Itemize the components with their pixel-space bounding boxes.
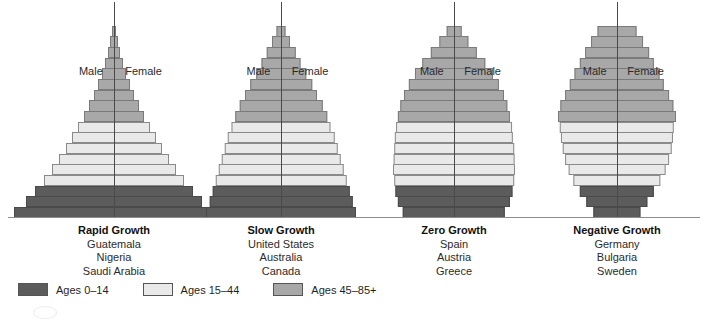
- panel-caption: Zero GrowthSpainAustriaGreece: [372, 224, 536, 278]
- legend-label-young: Ages 0–14: [56, 284, 109, 296]
- panel-title: Rapid Growth: [8, 224, 220, 238]
- panel-country: Sweden: [534, 265, 700, 279]
- sex-labels: MaleFemale: [372, 65, 536, 79]
- female-label: Female: [118, 65, 162, 77]
- pyramid-plot: [8, 0, 220, 218]
- pyramid-panel-2: MaleFemaleSlow GrowthUnited StatesAustra…: [190, 0, 372, 272]
- legend-label-old: Ages 45–85+: [311, 284, 376, 296]
- male-label: Male: [247, 65, 278, 77]
- panel-country: Canada: [190, 265, 372, 279]
- female-label: Female: [285, 65, 329, 77]
- pyramid-plot: [372, 0, 536, 218]
- panel-country: United States: [190, 238, 372, 252]
- page-corner-mark: [33, 306, 57, 319]
- pyramid-panel-4: MaleFemaleNegative GrowthGermanyBulgaria…: [534, 0, 700, 272]
- center-axis-line: [281, 2, 282, 218]
- center-axis-line: [617, 2, 618, 218]
- baseline: [534, 217, 700, 218]
- pyramid-plot: [190, 0, 372, 218]
- sex-labels: MaleFemale: [190, 65, 372, 79]
- pyramid-panel-3: MaleFemaleZero GrowthSpainAustriaGreece: [372, 0, 536, 272]
- panel-caption: Negative GrowthGermanyBulgariaSweden: [534, 224, 700, 278]
- baseline: [190, 217, 372, 218]
- panel-caption: Slow GrowthUnited StatesAustraliaCanada: [190, 224, 372, 278]
- female-label: Female: [620, 65, 664, 77]
- panel-country: Austria: [372, 251, 536, 265]
- male-label: Male: [79, 65, 110, 77]
- pyramid-plot: [534, 0, 700, 218]
- pyramid-panel-1: MaleFemaleRapid GrowthGuatemalaNigeriaSa…: [8, 0, 220, 272]
- panel-country: Guatemala: [8, 238, 220, 252]
- sex-labels: MaleFemale: [534, 65, 700, 79]
- male-label: Male: [583, 65, 614, 77]
- panel-country: Nigeria: [8, 251, 220, 265]
- panel-country: Saudi Arabia: [8, 265, 220, 279]
- legend-item-old: Ages 45–85+: [273, 283, 376, 296]
- panel-title: Negative Growth: [534, 224, 700, 238]
- female-label: Female: [457, 65, 501, 77]
- legend-swatch-young: [18, 283, 48, 296]
- panel-country: Spain: [372, 238, 536, 252]
- panel-caption: Rapid GrowthGuatemalaNigeriaSaudi Arabia: [8, 224, 220, 278]
- legend: Ages 0–14 Ages 15–44 Ages 45–85+: [18, 283, 410, 296]
- panel-country: Australia: [190, 251, 372, 265]
- panel-country: Germany: [534, 238, 700, 252]
- panel-title: Zero Growth: [372, 224, 536, 238]
- center-axis-line: [454, 2, 455, 218]
- male-label: Male: [420, 65, 451, 77]
- legend-item-young: Ages 0–14: [18, 283, 109, 296]
- legend-swatch-old: [273, 283, 303, 296]
- legend-swatch-mid: [143, 283, 173, 296]
- panel-country: Bulgaria: [534, 251, 700, 265]
- legend-item-mid: Ages 15–44: [143, 283, 240, 296]
- baseline: [8, 217, 220, 218]
- baseline: [372, 217, 536, 218]
- panel-country: Greece: [372, 265, 536, 279]
- sex-labels: MaleFemale: [8, 65, 220, 79]
- panel-title: Slow Growth: [190, 224, 372, 238]
- legend-label-mid: Ages 15–44: [181, 284, 240, 296]
- center-axis-line: [114, 2, 115, 218]
